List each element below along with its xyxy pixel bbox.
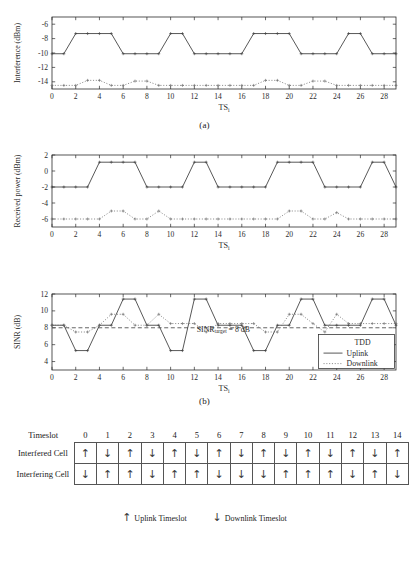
arrow-up-icon: ↑ <box>122 512 131 523</box>
x-tick-label: 28 <box>380 92 388 101</box>
data-point-marker <box>383 84 386 87</box>
data-point-marker <box>134 218 137 221</box>
y-tick-label: 10 <box>40 306 48 315</box>
x-tick-label: 18 <box>262 373 270 382</box>
x-tick-label: 18 <box>262 230 270 239</box>
arrow-down-icon: ↓ <box>81 469 90 480</box>
x-tick-label: 20 <box>285 230 293 239</box>
data-point-marker <box>145 80 148 83</box>
arrow-down-icon: ↓ <box>348 469 357 480</box>
arrow-up-icon: ↑ <box>393 448 402 459</box>
data-point-marker <box>276 324 279 327</box>
y-tick-label: 12 <box>40 290 48 299</box>
timeslot-legend: ↑Uplink Timeslot↓Downlink Timeslot <box>0 512 409 523</box>
data-point-marker <box>264 218 267 221</box>
data-point-marker <box>169 84 172 87</box>
data-point-marker <box>300 313 303 316</box>
x-tick-label: 6 <box>121 373 125 382</box>
data-point-marker <box>145 52 148 55</box>
data-point-marker <box>134 324 137 327</box>
x-tick-label: 10 <box>167 92 175 101</box>
arrow-up-icon: ↑ <box>125 448 134 459</box>
arrow-down-icon: ↓ <box>259 469 268 480</box>
timeslot-table: Timeslot01234567891011121314Interfered C… <box>12 428 409 485</box>
data-point-marker <box>323 52 326 55</box>
x-tick-label: 12 <box>191 92 199 101</box>
data-point-marker <box>347 218 350 221</box>
uplink-timeslot-cell: ↑ <box>119 464 141 485</box>
data-point-marker <box>74 218 77 221</box>
uplink-timeslot-cell: ↑ <box>252 443 274 464</box>
interference-chart: 0246810121416182022242628-6-8-10-12-14In… <box>0 8 409 120</box>
data-point-marker <box>169 322 172 325</box>
data-point-marker <box>62 84 65 87</box>
y-tick-label: 0 <box>44 167 48 176</box>
data-point-marker <box>311 218 314 221</box>
data-point-marker <box>240 84 243 87</box>
data-point-marker <box>323 218 326 221</box>
data-point-marker <box>122 210 125 213</box>
data-point-marker <box>288 84 291 87</box>
data-point-marker <box>86 79 89 82</box>
data-point-marker <box>228 84 231 87</box>
data-point-marker <box>62 324 65 327</box>
data-point-marker <box>252 84 255 87</box>
data-point-marker <box>264 32 267 35</box>
data-point-marker <box>110 84 113 87</box>
data-point-marker <box>145 186 148 189</box>
arrow-down-icon: ↓ <box>237 448 246 459</box>
data-point-marker <box>86 331 89 334</box>
data-point-marker <box>134 80 137 83</box>
data-point-marker <box>193 218 196 221</box>
y-tick-label: -6 <box>42 215 49 224</box>
chart-panel-c: 02468101214161820222426281210864SINR (dB… <box>0 284 409 424</box>
data-point-marker <box>122 313 125 316</box>
x-tick-label: 22 <box>309 373 317 382</box>
legend-label-uplink: Uplink <box>347 349 369 358</box>
data-point-marker <box>51 186 54 189</box>
series-line-uplink <box>52 34 396 54</box>
x-tick-label: 26 <box>357 92 365 101</box>
data-point-marker <box>86 218 89 221</box>
arrow-up-icon: ↑ <box>170 448 179 459</box>
data-point-marker <box>276 32 279 35</box>
downlink-timeslot-cell: ↓ <box>141 464 163 485</box>
x-tick-label: 0 <box>50 92 54 101</box>
timeslot-header-row: Timeslot01234567891011121314 <box>12 428 409 443</box>
x-tick-label: 16 <box>238 92 246 101</box>
timeslot-index-5: 5 <box>186 428 208 443</box>
data-point-marker <box>122 161 125 164</box>
data-point-marker <box>157 313 160 316</box>
data-point-marker <box>395 218 398 221</box>
timeslot-legend-label: Downlink Timeslot <box>225 514 287 523</box>
data-point-marker <box>205 298 208 301</box>
data-point-marker <box>371 322 374 325</box>
y-tick-label: -6 <box>42 20 49 29</box>
arrow-down-icon: ↓ <box>148 469 157 480</box>
y-tick-label: 6 <box>44 340 48 349</box>
data-point-marker <box>323 186 326 189</box>
data-point-marker <box>300 298 303 301</box>
data-point-marker <box>98 161 101 164</box>
arrow-up-icon: ↑ <box>103 469 112 480</box>
data-point-marker <box>395 186 398 189</box>
data-point-marker <box>157 84 160 87</box>
data-point-marker <box>323 324 326 327</box>
data-point-marker <box>300 84 303 87</box>
downlink-timeslot-cell: ↓ <box>208 464 230 485</box>
data-point-marker <box>51 218 54 221</box>
arrow-down-icon: ↓ <box>213 512 222 523</box>
downlink-timeslot-cell: ↓ <box>74 464 96 485</box>
arrow-up-icon: ↑ <box>125 469 134 480</box>
data-point-marker <box>264 79 267 82</box>
series-line-downlink <box>52 211 396 219</box>
arrow-up-icon: ↑ <box>214 448 223 459</box>
x-tick-label: 20 <box>285 92 293 101</box>
arrow-down-icon: ↓ <box>192 448 201 459</box>
data-point-marker <box>62 218 65 221</box>
data-point-marker <box>383 322 386 325</box>
x-tick-label: 26 <box>357 373 365 382</box>
data-point-marker <box>145 324 148 327</box>
data-point-marker <box>157 186 160 189</box>
uplink-timeslot-cell: ↑ <box>208 443 230 464</box>
